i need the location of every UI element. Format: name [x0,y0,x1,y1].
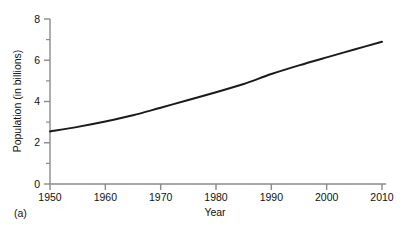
x-tick-label: 1990 [260,191,284,203]
x-axis-major-ticks [50,184,382,190]
x-tick-label: 1980 [204,191,228,203]
x-tick-label: 2000 [315,191,339,203]
population-line-chart: 02468 1950196019701980199020002010 Popul… [0,0,409,237]
x-tick-label: 1950 [38,191,62,203]
panel-label: (a) [14,207,27,219]
y-axis-tick-labels: 02468 [34,13,40,190]
x-tick-label: 1970 [149,191,173,203]
y-tick-label: 4 [34,95,40,107]
y-tick-label: 2 [34,136,40,148]
x-axis-tick-labels: 1950196019701980199020002010 [38,191,394,203]
y-tick-label: 0 [34,178,40,190]
x-tick-label: 2010 [370,191,394,203]
y-axis-title: Population (in billions) [11,50,23,153]
y-tick-label: 6 [34,54,40,66]
figure-panel-a: 02468 1950196019701980199020002010 Popul… [0,0,409,237]
y-axis-major-ticks [44,19,50,184]
y-tick-label: 8 [34,13,40,25]
data-series-line [50,42,382,132]
x-tick-label: 1960 [94,191,118,203]
x-axis-title: Year [204,206,226,218]
